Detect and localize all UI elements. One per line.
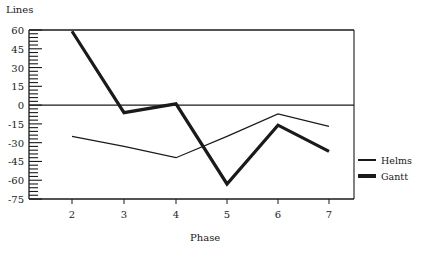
- line-chart: 604530150-15-30-45-60-75 234567: [0, 0, 421, 254]
- svg-text:6: 6: [275, 209, 281, 220]
- legend: Helms Gantt: [358, 152, 412, 184]
- svg-text:60: 60: [11, 25, 24, 36]
- svg-text:-45: -45: [8, 156, 24, 167]
- svg-text:4: 4: [173, 209, 179, 220]
- svg-text:30: 30: [11, 63, 24, 74]
- svg-text:45: 45: [11, 44, 24, 55]
- svg-text:-60: -60: [8, 175, 24, 186]
- y-axis-ticks: 604530150-15-30-45-60-75: [8, 25, 42, 205]
- svg-text:7: 7: [326, 209, 332, 220]
- series-helms: [72, 114, 329, 158]
- svg-text:3: 3: [121, 209, 127, 220]
- svg-text:-15: -15: [8, 119, 24, 130]
- svg-text:5: 5: [224, 209, 230, 220]
- axes: [29, 30, 354, 199]
- svg-text:15: 15: [11, 81, 24, 92]
- legend-label: Gantt: [381, 171, 408, 182]
- svg-text:0: 0: [18, 100, 24, 111]
- svg-text:2: 2: [69, 209, 75, 220]
- x-axis-ticks: 234567: [69, 199, 332, 220]
- thick-line-swatch-icon: [358, 174, 376, 178]
- svg-text:-75: -75: [8, 194, 24, 205]
- y-axis-title: Lines: [6, 4, 33, 15]
- data-series: [72, 31, 329, 184]
- series-gantt: [72, 31, 329, 184]
- x-axis-title: Phase: [190, 232, 220, 243]
- thin-line-swatch-icon: [358, 159, 376, 160]
- legend-label: Helms: [381, 155, 412, 166]
- legend-item-helms: Helms: [358, 152, 412, 168]
- legend-item-gantt: Gantt: [358, 168, 412, 184]
- svg-text:-30: -30: [8, 138, 24, 149]
